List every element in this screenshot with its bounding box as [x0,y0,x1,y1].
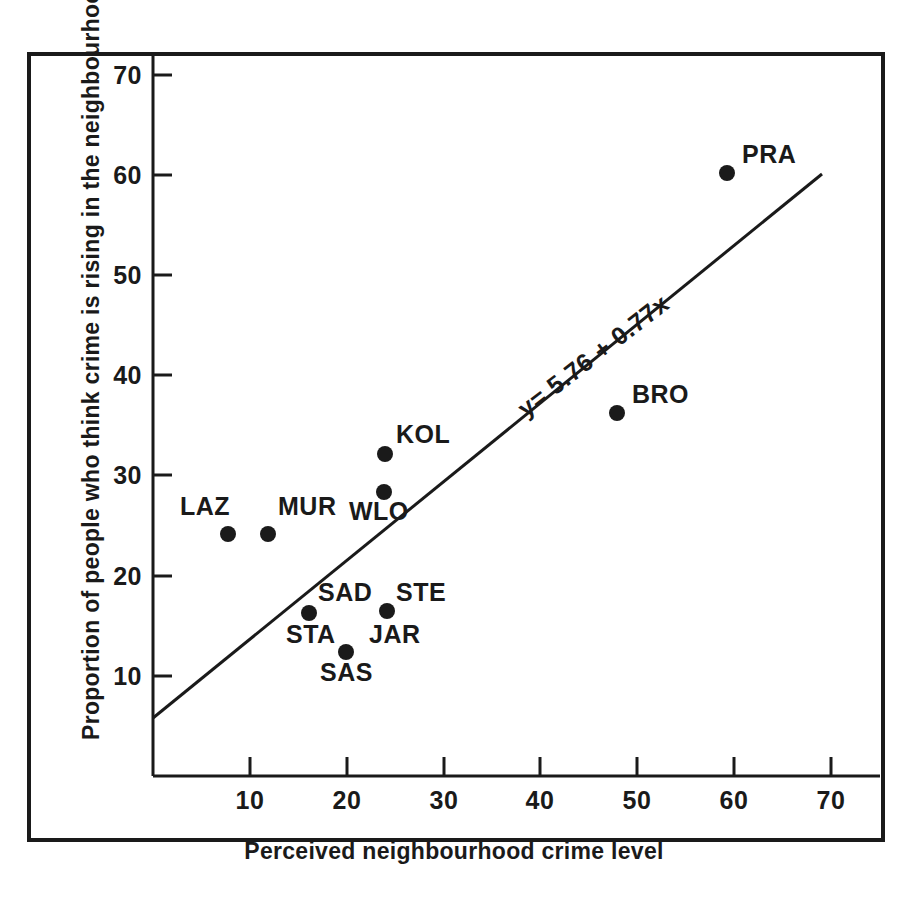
x-tick-label-40: 40 [526,786,555,815]
y-tick-label-70: 70 [113,61,142,90]
y-tick-label-30: 30 [113,461,142,490]
point-label-wlo: WLO [349,497,409,526]
x-tick-label-30: 30 [430,786,459,815]
x-tick-label-60: 60 [720,786,749,815]
point-label-pra: PRA [742,140,796,169]
point-label-sta: STA [286,620,336,649]
point-label-laz: LAZ [180,492,230,521]
plot-canvas [0,0,908,903]
scatter-plot-figure: 70 60 50 40 30 20 10 10 20 30 40 50 60 7… [0,0,908,903]
x-tick-label-10: 10 [236,786,265,815]
data-point-ste-jar [379,603,395,619]
x-tick-label-20: 20 [333,786,362,815]
x-tick-label-50: 50 [623,786,652,815]
data-point-laz [220,526,236,542]
point-label-mur: MUR [278,492,336,521]
point-label-sad: SAD [318,578,372,607]
x-axis-ticks [250,757,831,776]
x-tick-label-70: 70 [817,786,846,815]
x-axis-title: Perceived neighbourhood crime level [0,838,908,865]
data-point-mur [260,526,276,542]
y-axis-title: Proportion of people who think crime is … [78,40,105,740]
y-tick-label-60: 60 [113,161,142,190]
regression-line [153,174,822,718]
point-label-sas: SAS [320,658,373,687]
y-tick-label-10: 10 [113,662,142,691]
data-point-sad-sta [301,605,317,621]
data-point-bro [609,405,625,421]
y-tick-label-40: 40 [113,361,142,390]
point-label-bro: BRO [632,380,689,409]
point-label-kol: KOL [396,420,450,449]
point-label-jar: JAR [369,620,421,649]
data-points [220,165,735,660]
point-label-ste: STE [396,578,446,607]
data-point-pra [719,165,735,181]
y-tick-label-50: 50 [113,261,142,290]
y-axis-ticks [153,75,172,676]
y-tick-label-20: 20 [113,562,142,591]
data-point-kol [377,446,393,462]
